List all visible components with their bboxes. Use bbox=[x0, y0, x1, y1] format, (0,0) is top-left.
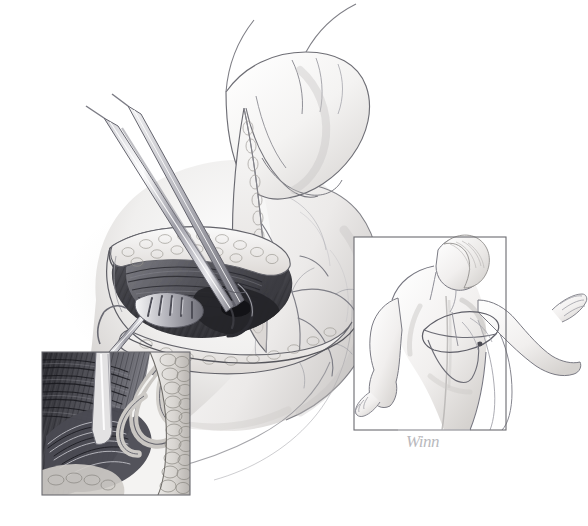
artist-signature: Winn bbox=[398, 430, 470, 451]
inset-orientation-right-panel: Winn bbox=[0, 0, 588, 526]
surgical-illustration-figure: Winn bbox=[0, 0, 588, 526]
artist-signature-text: Winn bbox=[406, 432, 439, 451]
